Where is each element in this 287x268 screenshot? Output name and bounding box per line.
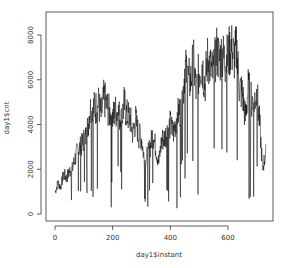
x-tick-label: 400 [164,234,177,242]
y-tick-label: 2000 [27,160,35,178]
x-tick-label: 200 [106,234,119,242]
y-axis-title: day1$cnt [3,101,11,134]
x-axis-title: day1$instant [136,251,182,259]
y-axis: 02000400060008000 [27,26,41,216]
data-series-line [55,25,265,208]
y-tick-label: 8000 [27,26,35,44]
y-tick-label: 4000 [27,116,35,134]
series-polyline [55,25,265,208]
x-tick-label: 0 [53,234,57,242]
x-axis: 0200400600 [53,226,235,242]
x-tick-label: 600 [221,234,234,242]
line-chart: 0200400600 02000400060008000 day1$instan… [0,0,287,268]
plot-frame [46,12,273,221]
y-tick-label: 0 [27,212,35,216]
y-tick-label: 6000 [27,71,35,89]
